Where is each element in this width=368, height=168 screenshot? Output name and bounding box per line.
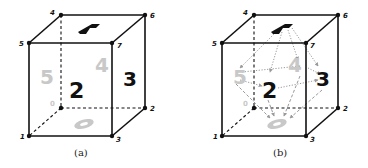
edge-3-2 bbox=[112, 108, 145, 136]
caption-b: (b) bbox=[273, 147, 287, 158]
caption-a: (a) bbox=[74, 147, 88, 158]
vertex-label-5: 5 bbox=[212, 40, 217, 48]
vertex-0 bbox=[252, 106, 256, 110]
vertex-6 bbox=[143, 13, 147, 17]
cube-figure: 5 4 2 3 4 6 5 7 0 2 1 3 (a) bbox=[0, 0, 368, 168]
vertex-5 bbox=[220, 41, 224, 45]
hidden-edge-0-1 bbox=[222, 108, 254, 136]
face-label-left: 5 bbox=[40, 65, 54, 89]
vertex-2 bbox=[336, 106, 340, 110]
vertex-label-3: 3 bbox=[310, 136, 315, 144]
edge-7-6 bbox=[112, 15, 145, 43]
face-label-left: 5 bbox=[233, 65, 247, 89]
vertex-4 bbox=[59, 13, 63, 17]
vertex-label-1: 1 bbox=[20, 133, 25, 141]
edge-5-4 bbox=[29, 15, 61, 43]
face-label-back: 4 bbox=[95, 53, 109, 77]
vertex-label-6: 6 bbox=[343, 12, 348, 20]
edge-7-6 bbox=[306, 15, 338, 43]
vertex-label-6: 6 bbox=[150, 12, 155, 20]
vertex-label-1: 1 bbox=[213, 133, 218, 141]
hidden-edge-0-1 bbox=[29, 108, 61, 136]
vertex-label-7: 7 bbox=[310, 42, 315, 50]
vertex-6 bbox=[336, 13, 340, 17]
vertex-label-3: 3 bbox=[116, 136, 121, 144]
vertex-label-2: 2 bbox=[343, 105, 348, 113]
vertex-label-0: 0 bbox=[243, 100, 248, 108]
vertex-7 bbox=[110, 41, 114, 45]
edge-3-2 bbox=[306, 108, 338, 136]
face-label-front: 2 bbox=[262, 78, 277, 103]
vertex-label-5: 5 bbox=[19, 40, 24, 48]
edge-5-4 bbox=[222, 15, 254, 43]
vertex-label-4: 4 bbox=[243, 9, 248, 17]
face-label-top bbox=[78, 24, 100, 34]
vertex-1 bbox=[220, 134, 224, 138]
panel-b: 5 4 2 3 4 6 5 7 0 2 1 3 (b) bbox=[212, 9, 348, 158]
vertex-3 bbox=[110, 134, 114, 138]
vertex-label-4: 4 bbox=[50, 9, 55, 17]
vertex-1 bbox=[27, 134, 31, 138]
face-label-right: 3 bbox=[123, 67, 137, 91]
vertex-0 bbox=[59, 106, 63, 110]
vertex-label-7: 7 bbox=[117, 42, 122, 50]
vertex-7 bbox=[304, 41, 308, 45]
face-label-front: 2 bbox=[69, 78, 84, 103]
vertex-label-0: 0 bbox=[50, 100, 55, 108]
vertex-2 bbox=[143, 106, 147, 110]
vertex-3 bbox=[304, 134, 308, 138]
vertex-label-2: 2 bbox=[150, 105, 155, 113]
panel-a: 5 4 2 3 4 6 5 7 0 2 1 3 (a) bbox=[19, 9, 155, 158]
face-label-right: 3 bbox=[316, 67, 330, 91]
face-label-back: 4 bbox=[288, 53, 302, 77]
vertex-5 bbox=[27, 41, 31, 45]
vertex-4 bbox=[252, 13, 256, 17]
